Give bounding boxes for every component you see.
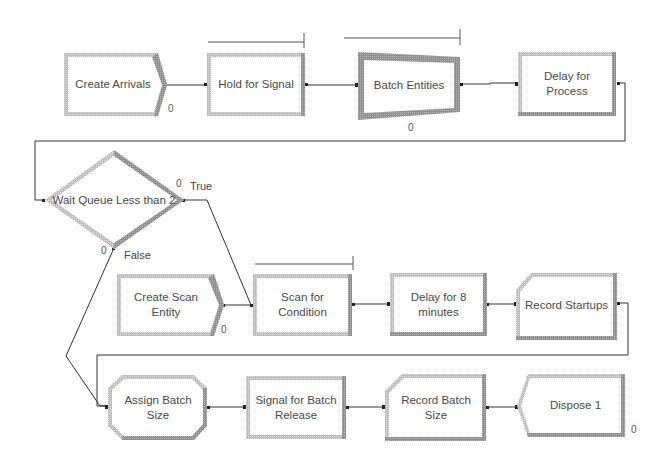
batch-entities-module[interactable] xyxy=(358,52,460,120)
decide-false-label: False xyxy=(124,249,151,261)
connector-batch-to-delay[interactable] xyxy=(462,83,516,84)
batch-entities-counter: 0 xyxy=(408,122,414,133)
hold-for-signal-module[interactable] xyxy=(207,53,305,116)
dispose-1-module[interactable] xyxy=(517,374,625,437)
decide-true-label: True xyxy=(190,180,212,192)
delay-for-8-minutes-module[interactable] xyxy=(390,273,487,336)
create-scan-entity-counter: 0 xyxy=(221,324,227,335)
signal-for-batch-release-module[interactable] xyxy=(246,376,346,439)
record-batch-size-module[interactable] xyxy=(385,374,486,441)
wait-queue-decide-module[interactable] xyxy=(45,150,184,249)
decide-false-counter: 0 xyxy=(101,245,107,256)
connector-decide-false-to-assign[interactable] xyxy=(66,248,114,406)
delay-for-process-module[interactable] xyxy=(518,52,616,116)
create-scan-entity-module[interactable] xyxy=(117,274,224,336)
assign-batch-size-module[interactable] xyxy=(108,375,207,440)
connectors xyxy=(35,83,628,407)
flowchart-canvas xyxy=(0,0,666,459)
connector-dots xyxy=(42,82,620,409)
decide-true-counter: 0 xyxy=(176,178,182,189)
create-arrivals-counter: 0 xyxy=(168,103,174,114)
create-arrivals-module[interactable] xyxy=(64,53,167,116)
scan-for-condition-module[interactable] xyxy=(253,274,352,336)
record-startups-module[interactable] xyxy=(516,273,617,340)
dispose-1-counter: 0 xyxy=(631,424,637,435)
